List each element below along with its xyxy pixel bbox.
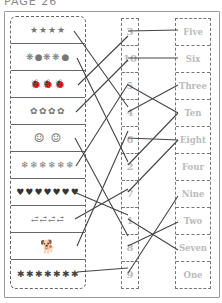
matching-lines bbox=[0, 0, 222, 303]
